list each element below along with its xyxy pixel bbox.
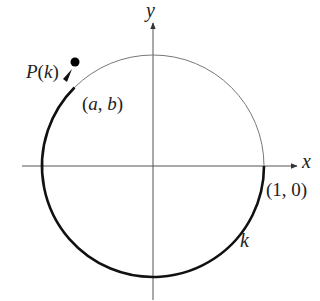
P-letter: P <box>26 61 38 82</box>
point-label-Pk: P(k) <box>26 62 59 81</box>
arc-length-label: k <box>240 230 249 250</box>
point-coords-ab: (a, b) <box>82 94 123 113</box>
start-point-label: (1, 0) <box>266 180 307 199</box>
b-letter: b <box>107 93 117 114</box>
point-P <box>71 58 80 67</box>
arc-arrow-icon <box>63 69 72 82</box>
a-letter: a <box>88 93 98 114</box>
y-axis-label: y <box>146 0 155 20</box>
comma: , <box>98 93 108 114</box>
paren: ) <box>52 61 58 82</box>
paren: ) <box>117 93 123 114</box>
x-axis-label: x <box>302 151 311 171</box>
unit-circle-diagram <box>0 0 320 301</box>
